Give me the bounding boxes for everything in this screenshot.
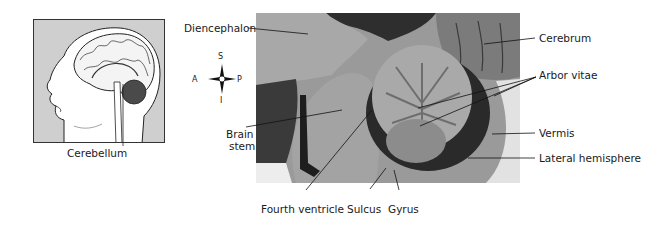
label-gyrus: Gyrus [388, 203, 419, 215]
label-diencephalon: Diencephalon [184, 22, 256, 34]
label-vermis: Vermis [539, 127, 575, 139]
label-brain-stem-1: Brain [226, 128, 254, 140]
label-cerebrum: Cerebrum [539, 32, 591, 44]
label-arbor-vitae: Arbor vitae [539, 69, 597, 81]
label-brain-stem-2: stem [229, 140, 255, 152]
label-sulcus: Sulcus [347, 203, 381, 215]
label-lateral-hemisphere: Lateral hemisphere [539, 152, 641, 164]
label-fourth-ventricle: Fourth ventricle [261, 203, 344, 215]
